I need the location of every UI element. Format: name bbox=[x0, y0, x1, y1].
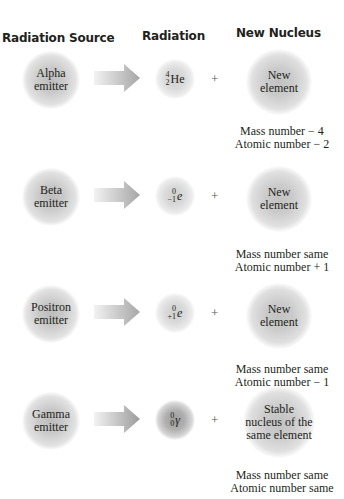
arrow-right-icon bbox=[94, 181, 140, 209]
beta-emitter-sphere: Betaemitter bbox=[22, 168, 80, 226]
nucleus-label: Newelement bbox=[260, 303, 298, 329]
beta-particle-sphere: 0−1 e bbox=[155, 176, 195, 216]
alpha-emitter-sphere: Alphaemitter bbox=[22, 51, 80, 109]
gamma-nuclide: 00 γ bbox=[170, 412, 180, 428]
plus-sign: + bbox=[211, 305, 218, 321]
arrow-right-icon bbox=[94, 405, 140, 433]
nucleus-change-note: Mass number − 4Atomic number − 2 bbox=[226, 125, 338, 151]
row-beta: Betaemitter 0−1 e + Newelement Mass numb… bbox=[0, 168, 344, 278]
nucleus-change-note: Mass number sameAtomic number − 1 bbox=[226, 363, 338, 389]
plus-sign: + bbox=[211, 71, 218, 87]
header-new-nucleus: New Nucleus bbox=[236, 26, 321, 40]
arrow-right-icon bbox=[94, 64, 140, 92]
row-gamma: Gammaemitter 00 γ + Stablenucleus of the… bbox=[0, 392, 344, 499]
nucleus-change-note: Mass number sameAtomic number same bbox=[226, 469, 338, 495]
helium-nuclide: 42 He bbox=[166, 71, 185, 87]
new-nucleus-sphere: Newelement bbox=[246, 166, 312, 232]
alpha-particle-sphere: 42 He bbox=[155, 59, 195, 99]
nucleus-label: Stablenucleus of thesame element bbox=[245, 403, 312, 442]
gamma-emitter-sphere: Gammaemitter bbox=[22, 392, 80, 450]
row-positron: Positronemitter 0+1 e + Newelement Mass … bbox=[0, 285, 344, 395]
new-nucleus-sphere: Newelement bbox=[246, 49, 312, 115]
header-radiation: Radiation bbox=[142, 29, 205, 43]
source-label: Alphaemitter bbox=[34, 67, 68, 93]
header-radiation-source: Radiation Source bbox=[2, 31, 114, 45]
new-nucleus-sphere: Newelement bbox=[246, 283, 312, 349]
plus-sign: + bbox=[211, 188, 218, 204]
gamma-ray-sphere: 00 γ bbox=[155, 400, 195, 440]
positron-emitter-sphere: Positronemitter bbox=[22, 285, 80, 343]
source-label: Betaemitter bbox=[34, 184, 68, 210]
electron-nuclide: 0−1 e bbox=[168, 188, 183, 204]
stable-nucleus-sphere: Stablenucleus of thesame element bbox=[243, 386, 315, 458]
arrow-right-icon bbox=[94, 298, 140, 326]
source-label: Gammaemitter bbox=[32, 408, 70, 434]
nucleus-change-note: Mass number sameAtomic number + 1 bbox=[226, 248, 338, 274]
row-alpha: Alphaemitter 42 He + Newelement Mass num… bbox=[0, 51, 344, 161]
nucleus-label: Newelement bbox=[260, 186, 298, 212]
nucleus-label: Newelement bbox=[260, 69, 298, 95]
positron-particle-sphere: 0+1 e bbox=[155, 293, 195, 333]
source-label: Positronemitter bbox=[31, 301, 71, 327]
positron-nuclide: 0+1 e bbox=[168, 305, 183, 321]
plus-sign: + bbox=[211, 412, 218, 428]
